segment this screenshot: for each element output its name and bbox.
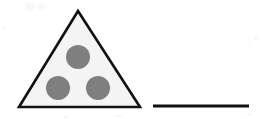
figure-canvas: [0, 0, 261, 119]
bottom-right-dot: [86, 76, 110, 100]
top-dot: [66, 45, 90, 69]
bottom-left-dot: [46, 76, 70, 100]
figure-illustration: [0, 0, 261, 119]
